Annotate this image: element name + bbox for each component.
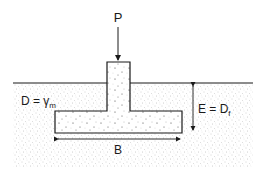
footing-diagram: P E = Df D = γm B [0,0,260,175]
soil-label-main: D = γ [21,94,49,108]
load-label: P [114,10,123,25]
depth-label: E = Df [198,102,231,118]
depth-label-main: E = D [198,102,229,116]
width-label: B [114,143,122,157]
soil-label-subscript: m [49,101,56,110]
